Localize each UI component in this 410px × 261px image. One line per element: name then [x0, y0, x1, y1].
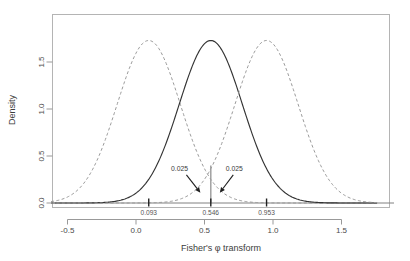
annotation-arrow-line	[223, 175, 233, 189]
annotation-label: 0.025	[171, 165, 188, 172]
density-plot: 0.00.51.01.5 -0.50.00.51.01.5 0.0930.546…	[0, 0, 410, 261]
annotation-arrow-line	[186, 175, 197, 189]
x-tick-label: 1.0	[267, 226, 279, 235]
y-tick-label: 1.5	[37, 56, 46, 68]
x-tick-label: 1.5	[336, 226, 348, 235]
y-tick-label: 0.0	[37, 197, 46, 209]
tail-probability-annotations: 0.0250.025	[171, 165, 243, 193]
plot-frame	[53, 15, 390, 208]
x-tick-label: 0.5	[199, 226, 211, 235]
marker-label: 0.546	[203, 209, 220, 216]
marker-label: 0.953	[258, 209, 275, 216]
chart-figure: 0.00.51.01.5 -0.50.00.51.01.5 0.0930.546…	[0, 0, 410, 261]
y-tick-label: 1.0	[37, 103, 46, 115]
density-curve-null-upper	[51, 40, 377, 203]
x-tick-label: -0.5	[61, 226, 75, 235]
y-tick-label: 0.5	[37, 150, 46, 162]
density-curve-observed	[51, 40, 377, 203]
y-axis-title: Density	[7, 94, 17, 125]
density-curve-null-lower	[51, 40, 377, 203]
y-axis-ticks: 0.00.51.01.5	[37, 56, 53, 209]
annotation-label: 0.025	[226, 165, 243, 172]
x-axis-title: Fisher's φ transform	[181, 243, 261, 253]
marker-label: 0.093	[140, 209, 157, 216]
x-tick-label: 0.0	[130, 226, 142, 235]
density-curves	[51, 40, 377, 203]
x-axis-ticks: -0.50.00.51.01.5	[61, 220, 348, 236]
